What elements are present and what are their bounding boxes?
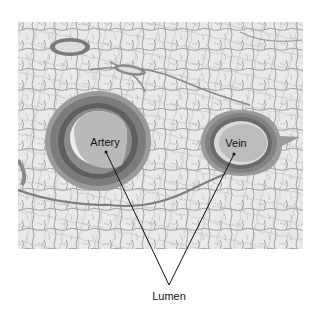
vein-label: Vein: [225, 137, 246, 149]
lumen-label: Lumen: [152, 290, 186, 302]
micrograph-photo: [18, 22, 303, 249]
small-vessel: [50, 38, 90, 56]
micrograph-figure: Artery Vein Lumen: [0, 0, 319, 324]
artery-label: Artery: [90, 136, 120, 148]
